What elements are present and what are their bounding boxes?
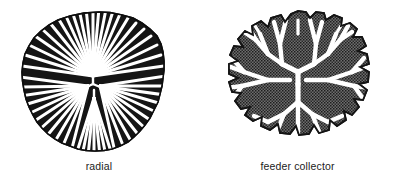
- panel-feeder-collector: feeder collector: [198, 0, 397, 185]
- caption-feeder-collector: feeder collector: [198, 160, 397, 173]
- caption-radial: radial: [0, 160, 198, 173]
- figure-root: radial: [0, 0, 397, 185]
- panel-radial: radial: [0, 0, 198, 185]
- radial-diagram: [0, 6, 198, 158]
- feeder-collector-diagram: [198, 6, 397, 158]
